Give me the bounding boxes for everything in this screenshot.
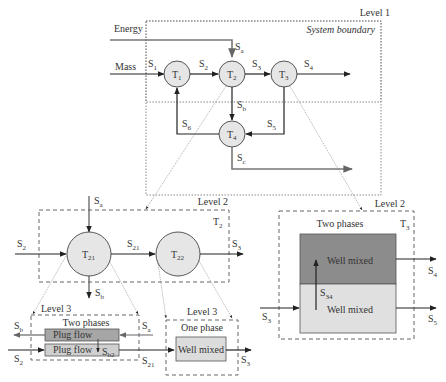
stream-s6-label: S6 — [182, 118, 192, 132]
stream-s3-r-label: S3 — [262, 311, 272, 325]
process-hierarchy-diagram: Level 1 System boundary Energy Sa Mass S… — [0, 0, 446, 382]
energy-stream — [110, 40, 232, 57]
container-t3-label: T3 — [400, 218, 410, 232]
level3-two-phase-group: Level 3 Two phases Plug flow Plug flow S… — [8, 303, 174, 369]
level3-right-label: Level 3 — [187, 306, 217, 317]
stream-s21-label: S21 — [127, 238, 140, 252]
level3-left-title: Two phases — [63, 317, 110, 328]
stream-sc-label: Sc — [237, 152, 246, 166]
zoom-line-t21-b — [110, 262, 138, 314]
svg-text:Well mixed: Well mixed — [178, 344, 224, 355]
level1-label: Level 1 — [360, 7, 390, 18]
stream-s5-label: S5 — [267, 118, 277, 132]
level2-right-title: Two phases — [317, 218, 364, 229]
stream-s3-label: S3 — [252, 58, 262, 72]
stream-s2-label: S2 — [199, 58, 209, 72]
svg-text:Well mixed: Well mixed — [327, 255, 373, 266]
energy-label: Energy — [114, 23, 143, 34]
stream-sa-label: Sa — [235, 41, 245, 55]
stream-sb-l2-label: Sb — [95, 287, 105, 301]
svg-text:Plug flow: Plug flow — [53, 344, 93, 355]
tank-t1: T1 — [164, 61, 190, 87]
zoom-line-t3-right — [290, 86, 362, 210]
level2-t3-group: Level 2 Two phases T3 Well mixed Well mi… — [260, 198, 438, 339]
stream-sb-l3-label: Sb — [14, 320, 24, 334]
level3-right-title: One phase — [181, 322, 223, 333]
level2-left-label: Level 2 — [198, 196, 228, 207]
stream-s4-label: S4 — [304, 58, 314, 72]
tank-t2: T2 — [219, 61, 245, 87]
level2-t2-group: Level 2 T2 Sa S2 T21 S21 T22 S3 Sb — [15, 195, 243, 301]
mass-label: Mass — [115, 61, 136, 72]
level3-one-phase-group: Level 3 One phase Well mixed S3 — [166, 306, 251, 375]
level1-group: Level 1 System boundary Energy Sa Mass S… — [110, 7, 390, 199]
stream-sa-l3-label: Sa — [142, 320, 152, 334]
stream-s4-r-label: S4 — [428, 265, 438, 279]
level3-left-label: Level 3 — [41, 303, 71, 314]
system-boundary-label: System boundary — [306, 24, 375, 35]
stream-s21-l3-label: S21 — [142, 355, 155, 369]
stream-sa-l2-label: Sa — [94, 195, 104, 209]
tank-t21: T21 — [67, 232, 111, 276]
level2-right-label: Level 2 — [375, 198, 405, 209]
stream-sc — [232, 147, 352, 169]
stream-s5-r-label: S5 — [428, 313, 438, 327]
stream-s2-l3-label: S2 — [14, 353, 24, 367]
stream-sb-label: Sb — [237, 99, 247, 113]
container-t2-label: T2 — [213, 216, 223, 230]
stream-s2-l2-label: S2 — [17, 238, 27, 252]
stream-s1-label: S1 — [148, 58, 158, 72]
tank-t3: T3 — [271, 61, 297, 87]
svg-text:Plug flow: Plug flow — [53, 329, 93, 340]
svg-text:Well mixed: Well mixed — [327, 304, 373, 315]
zoom-line-t2-left — [146, 86, 226, 209]
tank-t4: T4 — [219, 121, 245, 147]
stream-s3-l2-label: S3 — [232, 238, 242, 252]
stream-s3-l3-label: S3 — [241, 354, 251, 368]
stream-s5 — [246, 87, 284, 134]
tank-t22: T22 — [156, 232, 200, 276]
